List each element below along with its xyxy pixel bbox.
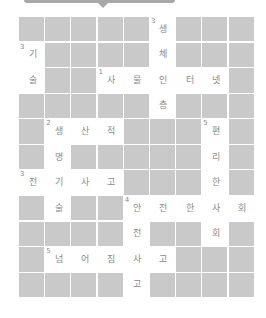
cell-letter: 짐 — [105, 255, 115, 264]
block-cell — [98, 196, 123, 220]
answer-cell[interactable]: 3생 — [150, 17, 175, 41]
block-cell — [71, 17, 96, 41]
answer-cell[interactable]: 사 — [124, 247, 149, 271]
answer-cell[interactable]: 고 — [150, 247, 175, 271]
block-cell — [176, 119, 201, 143]
block-cell — [71, 94, 96, 118]
answer-cell[interactable]: 산 — [71, 119, 96, 143]
answer-cell[interactable]: 3기 — [19, 43, 44, 67]
answer-cell[interactable]: 명 — [45, 145, 70, 169]
answer-cell[interactable]: 체 — [150, 43, 175, 67]
block-cell — [19, 17, 44, 41]
answer-cell[interactable]: 고 — [124, 273, 149, 297]
block-cell — [19, 273, 44, 297]
block-cell — [98, 94, 123, 118]
answer-cell[interactable]: 5편 — [202, 119, 227, 143]
block-cell — [176, 145, 201, 169]
cell-letter: 사 — [131, 255, 141, 264]
answer-cell[interactable]: 4안 — [124, 196, 149, 220]
answer-cell[interactable]: 한 — [202, 170, 227, 194]
block-cell — [45, 94, 70, 118]
clue-number: 3 — [20, 171, 24, 178]
cell-letter: 기 — [53, 178, 63, 187]
block-cell — [124, 119, 149, 143]
block-cell — [229, 145, 254, 169]
clue-number: 3 — [151, 18, 155, 25]
cell-letter: 명 — [53, 153, 63, 162]
block-cell — [229, 170, 254, 194]
block-cell — [19, 119, 44, 143]
answer-cell[interactable]: 한 — [176, 196, 201, 220]
answer-cell[interactable]: 술 — [45, 196, 70, 220]
block-cell — [71, 43, 96, 67]
answer-cell[interactable]: 물 — [124, 68, 149, 92]
block-cell — [176, 17, 201, 41]
answer-cell[interactable]: 전 — [150, 196, 175, 220]
answer-cell[interactable]: 넷 — [202, 68, 227, 92]
block-cell — [71, 68, 96, 92]
cell-letter: 편 — [210, 127, 220, 136]
block-cell — [45, 273, 70, 297]
clue-number: 5 — [46, 248, 50, 255]
answer-cell[interactable]: 전 — [124, 222, 149, 246]
answer-cell[interactable]: 사 — [71, 170, 96, 194]
block-cell — [229, 17, 254, 41]
cell-letter: 넘 — [53, 255, 63, 264]
answer-cell[interactable]: 리 — [202, 145, 227, 169]
block-cell — [98, 145, 123, 169]
block-cell — [176, 43, 201, 67]
block-cell — [71, 196, 96, 220]
answer-cell[interactable]: 회 — [202, 222, 227, 246]
cell-letter: 층 — [157, 101, 167, 110]
cell-letter: 전 — [131, 229, 141, 238]
answer-cell[interactable]: 고 — [98, 170, 123, 194]
cell-letter: 사 — [105, 76, 115, 85]
block-cell — [124, 17, 149, 41]
answer-cell[interactable]: 층 — [150, 94, 175, 118]
block-cell — [229, 68, 254, 92]
cell-letter: 인 — [157, 76, 167, 85]
cell-letter: 기 — [27, 50, 37, 59]
answer-cell[interactable]: 인 — [150, 68, 175, 92]
answer-cell[interactable]: 터 — [176, 68, 201, 92]
clue-number: 2 — [46, 120, 50, 127]
block-cell — [176, 247, 201, 271]
cell-letter: 안 — [131, 204, 141, 213]
block-cell — [124, 145, 149, 169]
block-cell — [150, 273, 175, 297]
answer-cell[interactable]: 적 — [98, 119, 123, 143]
block-cell — [45, 222, 70, 246]
block-cell — [229, 247, 254, 271]
answer-cell[interactable]: 3전 — [19, 170, 44, 194]
cell-letter: 넷 — [210, 76, 220, 85]
block-cell — [98, 273, 123, 297]
block-cell — [229, 94, 254, 118]
cell-letter: 사 — [210, 204, 220, 213]
answer-cell[interactable]: 술 — [19, 68, 44, 92]
block-cell — [71, 145, 96, 169]
answer-cell[interactable]: 2생 — [45, 119, 70, 143]
answer-cell[interactable]: 기 — [45, 170, 70, 194]
cell-letter: 리 — [210, 153, 220, 162]
cell-letter: 회 — [210, 229, 220, 238]
cell-letter: 한 — [210, 178, 220, 187]
block-cell — [202, 94, 227, 118]
block-cell — [229, 119, 254, 143]
answer-cell[interactable]: 사 — [202, 196, 227, 220]
answer-cell[interactable]: 5넘 — [45, 247, 70, 271]
answer-cell[interactable]: 어 — [71, 247, 96, 271]
cell-letter: 생 — [53, 127, 63, 136]
block-cell — [176, 222, 201, 246]
block-cell — [19, 247, 44, 271]
answer-cell[interactable]: 회 — [229, 196, 254, 220]
cell-letter: 생 — [157, 25, 167, 34]
answer-cell[interactable]: 짐 — [98, 247, 123, 271]
cell-letter: 고 — [105, 178, 115, 187]
block-cell — [98, 43, 123, 67]
clue-number: 5 — [203, 120, 207, 127]
block-cell — [45, 68, 70, 92]
block-cell — [229, 43, 254, 67]
cell-letter: 한 — [184, 204, 194, 213]
answer-cell[interactable]: 1사 — [98, 68, 123, 92]
block-cell — [45, 17, 70, 41]
